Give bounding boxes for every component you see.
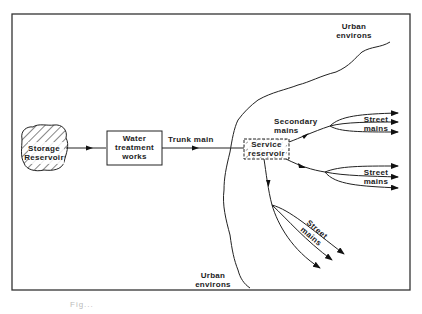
service-reservoir-line2: reservoir (244, 149, 289, 158)
figure-caption: Fig... (70, 300, 94, 309)
treatment-works-line2: treatment (107, 143, 162, 152)
service-reservoir-line1: Service (244, 140, 289, 149)
flow-arrow-icon (86, 146, 93, 151)
secondary-main-middle (286, 159, 325, 172)
urban-top-line1: Urban (329, 22, 379, 31)
street-mains-line1: Street (358, 115, 394, 124)
street-mains-line2: mains (358, 177, 394, 186)
street-mains-line1: Street (358, 168, 394, 177)
street-mains-label-upper: Street mains (358, 115, 394, 133)
treatment-works-line1: Water (107, 134, 162, 143)
urban-top-line2: environs (329, 31, 379, 40)
storage-reservoir-label: Storage Reservoir (22, 144, 66, 162)
secondary-mains-label: Secondary mains (274, 117, 318, 135)
flow-arrow-icon (192, 146, 199, 151)
diagram-frame (12, 14, 410, 290)
urban-bottom-line2: environs (188, 280, 238, 289)
secondary-mains-line1: Secondary (274, 117, 318, 126)
trunk-main-label: Trunk main (168, 135, 214, 144)
urban-bottom-line1: Urban (188, 271, 238, 280)
street-mains-label-middle: Street mains (358, 168, 394, 186)
water-supply-diagram: Storage Reservoir Water treatment works … (0, 0, 422, 314)
flow-arrow-icon (266, 180, 271, 187)
urban-environs-label-top: Urban environs (329, 22, 379, 40)
treatment-works-label: Water treatment works (107, 134, 162, 161)
secondary-mains-line2: mains (274, 126, 318, 135)
urban-environs-label-bottom: Urban environs (188, 271, 238, 289)
service-reservoir-label: Service reservoir (244, 140, 289, 158)
urban-boundary-line (223, 42, 390, 288)
flow-arrow-icon (298, 163, 306, 168)
storage-reservoir-line1: Storage (22, 144, 66, 153)
treatment-works-line3: works (107, 152, 162, 161)
street-mains-line2: mains (358, 124, 394, 133)
storage-reservoir-line2: Reservoir (22, 153, 66, 162)
